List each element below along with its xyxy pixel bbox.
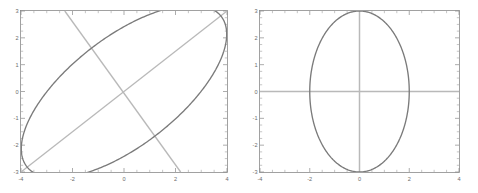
y-tick-label: 3 bbox=[15, 8, 18, 14]
major-axis-line bbox=[21, 11, 227, 172]
minor-axis-line bbox=[65, 11, 181, 172]
y-tick-label: 0 bbox=[254, 89, 257, 95]
x-axis-tick-labels-left: -4-2024 bbox=[19, 176, 229, 182]
chart-svg-right: -4-2024 -3-2-10123 bbox=[239, 0, 478, 193]
chart-panel-right: -4-2024 -3-2-10123 bbox=[239, 0, 478, 193]
x-tick-label: -4 bbox=[258, 176, 263, 182]
x-tick-label: 4 bbox=[457, 176, 460, 182]
x-tick-label: -2 bbox=[307, 176, 312, 182]
x-tick-label: -2 bbox=[70, 176, 75, 182]
x-tick-label: -4 bbox=[19, 176, 24, 182]
guide-lines-left bbox=[21, 11, 227, 172]
y-tick-label: -1 bbox=[14, 115, 19, 121]
x-tick-label: 2 bbox=[408, 176, 411, 182]
x-axis-tick-labels-right: -4-2024 bbox=[258, 176, 461, 182]
y-axis-tick-labels-right: -3-2-10123 bbox=[253, 8, 258, 175]
x-tick-label: 0 bbox=[122, 176, 125, 182]
y-tick-label: 1 bbox=[15, 62, 18, 68]
y-tick-label: -1 bbox=[253, 115, 258, 121]
y-tick-label: 2 bbox=[254, 35, 257, 41]
y-tick-label: 3 bbox=[254, 8, 257, 14]
chart-panel-left: -4-2024 -3-2-10123 bbox=[0, 0, 239, 193]
y-axis-tick-labels-left: -3-2-10123 bbox=[14, 8, 19, 175]
y-tick-label: -2 bbox=[253, 142, 258, 148]
y-tick-label: 1 bbox=[254, 62, 257, 68]
x-tick-label: 0 bbox=[358, 176, 361, 182]
x-tick-label: 2 bbox=[174, 176, 177, 182]
axis-lines-right bbox=[260, 11, 459, 172]
y-tick-label: -3 bbox=[253, 169, 258, 175]
y-tick-label: -3 bbox=[14, 169, 19, 175]
y-tick-label: 2 bbox=[15, 35, 18, 41]
y-tick-label: -2 bbox=[14, 142, 19, 148]
figure-root: -4-2024 -3-2-10123 -4-2024 -3-2-10123 bbox=[0, 0, 478, 193]
y-tick-label: 0 bbox=[15, 89, 18, 95]
chart-svg-left: -4-2024 -3-2-10123 bbox=[0, 0, 239, 193]
x-tick-label: 4 bbox=[225, 176, 228, 182]
